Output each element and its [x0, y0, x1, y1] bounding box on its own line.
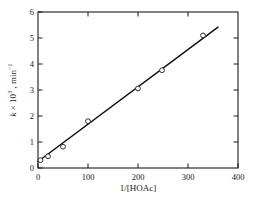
y-tick-label: 0	[12, 164, 34, 173]
data-point	[201, 33, 206, 38]
data-point	[61, 144, 66, 149]
data-point	[38, 158, 43, 163]
x-tick-label: 300	[182, 173, 195, 182]
chart-figure: 0123456 0100200300400 1/[HOAc] k × 103 ,…	[0, 0, 256, 204]
y-axis-label: k × 103 , min−1	[8, 64, 18, 117]
data-point	[136, 86, 141, 91]
y-tick-label: 1	[12, 138, 34, 147]
y-tick-label: 5	[12, 34, 34, 43]
x-axis-label: 1/[HOAc]	[120, 183, 157, 193]
y-tick-label: 6	[12, 8, 34, 17]
x-tick-label: 200	[132, 173, 145, 182]
fit-line	[38, 27, 218, 161]
data-point	[86, 119, 91, 124]
x-tick-label: 100	[82, 173, 95, 182]
x-tick-label: 400	[232, 173, 245, 182]
data-point	[160, 68, 165, 73]
x-tick-label: 0	[36, 173, 40, 182]
data-point	[46, 154, 51, 159]
